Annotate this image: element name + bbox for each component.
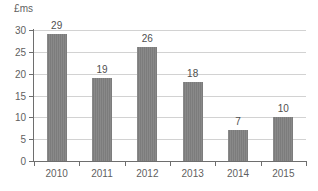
gridline [34, 52, 306, 53]
y-tick-mark [29, 96, 34, 97]
bar [228, 130, 248, 161]
x-tick-mark [306, 161, 307, 166]
bar [92, 78, 112, 161]
plot-area [34, 30, 306, 161]
y-tick-label: 10 [15, 112, 26, 123]
gridline [34, 117, 306, 118]
y-tick-label: 20 [15, 68, 26, 79]
y-tick-label: 0 [20, 156, 26, 167]
x-tick-mark [125, 161, 126, 166]
x-tick-label: 2013 [182, 168, 204, 179]
y-tick-mark [29, 30, 34, 31]
y-tick-label: 5 [20, 134, 26, 145]
y-tick-mark [29, 52, 34, 53]
x-tick-mark [79, 161, 80, 166]
gridline [34, 96, 306, 97]
gridline [34, 74, 306, 75]
bar [47, 34, 67, 161]
x-tick-label: 2014 [227, 168, 249, 179]
y-tick-mark [29, 74, 34, 75]
bar [273, 117, 293, 161]
x-tick-mark [215, 161, 216, 166]
bar-value-label: 18 [187, 68, 198, 79]
bar-chart: £ms 051015202530 29192618710 20102011201… [0, 0, 318, 191]
x-tick-label: 2010 [46, 168, 68, 179]
bar [183, 82, 203, 161]
bar-value-label: 26 [142, 33, 153, 44]
bar-value-label: 29 [51, 20, 62, 31]
bar-value-label: 19 [96, 64, 107, 75]
x-tick-label: 2012 [136, 168, 158, 179]
y-tick-label: 25 [15, 46, 26, 57]
x-tick-label: 2015 [272, 168, 294, 179]
y-tick-label: 30 [15, 25, 26, 36]
x-tick-label: 2011 [91, 168, 113, 179]
bar-value-label: 7 [235, 116, 241, 127]
bar-value-label: 10 [278, 103, 289, 114]
y-tick-mark [29, 117, 34, 118]
x-tick-mark [34, 161, 35, 166]
y-tick-mark [29, 139, 34, 140]
x-tick-mark [170, 161, 171, 166]
x-tick-mark [261, 161, 262, 166]
y-tick-label: 15 [15, 90, 26, 101]
gridline [34, 139, 306, 140]
y-axis-unit-label: £ms [14, 3, 33, 14]
bar [137, 47, 157, 161]
gridline [34, 30, 306, 31]
